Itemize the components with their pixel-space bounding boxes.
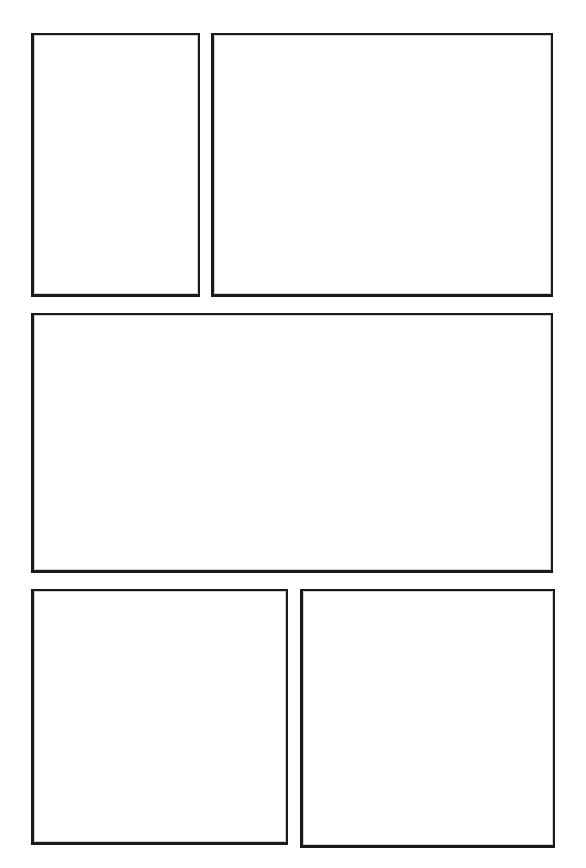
comic-panel-4[interactable] [31, 589, 288, 845]
comic-panel-3[interactable] [31, 313, 553, 573]
comic-page [0, 0, 586, 868]
comic-panel-5[interactable] [300, 589, 555, 848]
comic-panel-1[interactable] [31, 33, 200, 297]
comic-panel-2[interactable] [211, 33, 553, 297]
